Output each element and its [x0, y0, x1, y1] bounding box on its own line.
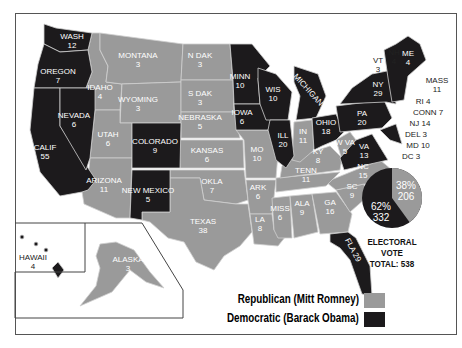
- state-label-nd: N DAK3: [188, 51, 212, 69]
- state-label-ny: NY29: [372, 80, 383, 98]
- callout-ct: CONN 7: [413, 108, 443, 117]
- state-label-il: ILL20: [277, 131, 288, 149]
- state-label-id: IDAHO4: [87, 83, 112, 101]
- state-label-wi: WIS10: [265, 85, 280, 103]
- state-label-or: OREGON7: [40, 67, 76, 85]
- state-newengland: [384, 36, 426, 102]
- callout-dc: DC 3: [402, 152, 420, 161]
- state-label-nv: NEVADA6: [58, 111, 90, 129]
- state-label-wv: W VA5: [335, 138, 355, 156]
- state-label-tn: TENN11: [295, 166, 317, 184]
- republican-swatch: [364, 293, 385, 308]
- callout-de: DEL 3: [405, 130, 427, 139]
- state-label-hi: HAWAII4: [19, 253, 47, 271]
- state-label-ak: ALASKA3: [112, 255, 143, 273]
- state-label-al: ALA9: [294, 199, 309, 217]
- callout-ma: MASS11: [426, 76, 449, 94]
- state-label-nm: NEW MEXICO5: [122, 186, 174, 204]
- state-label-me: ME4: [402, 49, 414, 67]
- state-label-va: VA13: [359, 142, 369, 160]
- state-label-ga: GA16: [324, 198, 336, 216]
- state-label-tx: TEXAS38: [190, 217, 216, 235]
- state-label-az: ARIZONA11: [86, 176, 122, 194]
- callout-md: MD 10: [406, 141, 430, 150]
- state-label-mt: MONTANA3: [118, 51, 157, 69]
- state-label-mo: MO10: [251, 145, 264, 163]
- state-label-in: IN11: [299, 127, 307, 145]
- callout-nh: NH4: [388, 48, 400, 66]
- state-label-ne: NEBRASKA5: [178, 113, 222, 131]
- state-label-sc: SC9: [346, 182, 357, 200]
- state-label-mn: MINN10: [230, 72, 250, 90]
- state-label-wa: WASH12: [60, 32, 84, 50]
- state-alaska: [80, 242, 164, 306]
- state-label-nc: NC15: [357, 162, 369, 180]
- state-label-pa: PA20: [357, 109, 367, 127]
- legend-republican: Republican (Mitt Romney): [183, 292, 385, 311]
- callout-vt: VT3: [373, 56, 383, 74]
- legend-democratic: Democratic (Barack Obama): [183, 311, 385, 330]
- state-label-ar: ARK6: [250, 183, 266, 201]
- state-label-ok: OKLA7: [201, 177, 222, 195]
- pie-dem-label: 62%332: [371, 201, 391, 223]
- callout-nj: NJ 14: [410, 119, 431, 128]
- state-label-co: COLORADO9: [132, 137, 178, 155]
- state-label-ca: CALIF55: [34, 143, 57, 161]
- legend: Republican (Mitt Romney) Democratic (Bar…: [183, 292, 385, 330]
- electoral-vote-total: ELECTORAL VOTE TOTAL: 538: [367, 236, 416, 269]
- state-label-ms: MISS6: [270, 204, 290, 222]
- state-label-ut: UTAH6: [97, 130, 118, 148]
- state-label-sd: S DAK3: [188, 89, 212, 107]
- pie-rep-label: 38%206: [396, 180, 416, 202]
- state-label-la: LA8: [255, 215, 265, 233]
- state-hawaii-big: [52, 262, 64, 278]
- callout-ri: RI 4: [416, 97, 431, 106]
- state-label-oh: OHIO18: [316, 118, 336, 136]
- state-label-ks: KANSAS6: [191, 146, 223, 164]
- democratic-swatch: [364, 312, 385, 327]
- state-label-ky: KY8: [313, 147, 324, 165]
- state-label-ia: IOWA6: [231, 108, 252, 126]
- state-label-wy: WYOMING3: [118, 95, 158, 113]
